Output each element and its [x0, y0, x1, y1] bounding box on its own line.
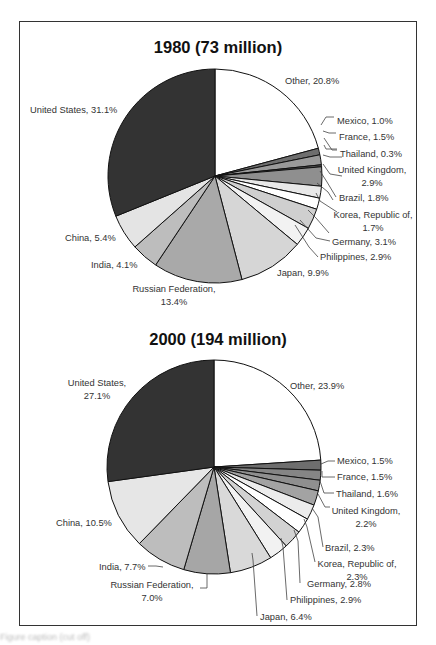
- slice-label: Brazil, 1.8%: [339, 193, 389, 203]
- slice-label: Other, 20.8%: [285, 76, 339, 86]
- slice-label: Germany, 3.1%: [332, 237, 396, 247]
- slice-label: Russian Federation,13.4%: [132, 284, 215, 307]
- leader-line: [148, 566, 163, 567]
- slice-label: Japan, 6.4%: [260, 612, 312, 622]
- slice-label: Korea, Republic of,1.7%: [333, 210, 412, 233]
- leader-line: [320, 481, 334, 493]
- slice-label: India, 7.7%: [99, 562, 146, 572]
- slice-label: Thailand, 0.3%: [340, 149, 402, 159]
- leader-line: [321, 117, 334, 125]
- figure-caption: Figure caption (cut off): [0, 632, 300, 642]
- slice-label: France, 1.5%: [339, 132, 394, 142]
- slice-label: Philippines, 2.9%: [320, 252, 391, 262]
- leader-line: [200, 574, 207, 588]
- slice-label: France, 1.5%: [337, 472, 392, 482]
- slice-label: Germany, 2.8%: [307, 579, 371, 589]
- pie-charts: Other, 20.8%United States, 31.1%Mexico, …: [0, 0, 436, 645]
- slice-label: India, 4.1%: [91, 260, 138, 270]
- leader-line: [321, 461, 335, 464]
- slice-label: United States, 31.1%: [30, 105, 117, 115]
- leader-line: [312, 508, 323, 547]
- leader-line: [318, 494, 330, 507]
- slice-label: United Kingdom,2.2%: [332, 506, 401, 529]
- slice-label: Mexico, 1.0%: [337, 116, 393, 126]
- slice-label: Brazil, 2.3%: [325, 543, 375, 553]
- leader-line: [294, 530, 300, 583]
- pie-slice-other: [214, 360, 321, 467]
- slice-label: China, 5.4%: [65, 233, 116, 243]
- slice-label: Japan, 9.9%: [277, 268, 329, 278]
- leader-line: [322, 471, 335, 477]
- leader-line: [323, 131, 336, 133]
- pie-chart-2000: [107, 360, 321, 574]
- leader-line: [304, 519, 315, 562]
- slice-label: China, 10.5%: [56, 518, 112, 528]
- slice-label: Thailand, 1.6%: [336, 489, 398, 499]
- slice-label: Other, 23.9%: [290, 381, 344, 391]
- slice-label: Philippines, 2.9%: [290, 595, 361, 605]
- pie-chart-1980: [108, 69, 322, 283]
- slice-label: Russian Federation,7.0%: [110, 580, 193, 603]
- slice-label: United Kingdom,2.9%: [338, 165, 407, 188]
- slice-label: United States,27.1%: [68, 378, 126, 401]
- slice-label: Mexico, 1.5%: [337, 456, 393, 466]
